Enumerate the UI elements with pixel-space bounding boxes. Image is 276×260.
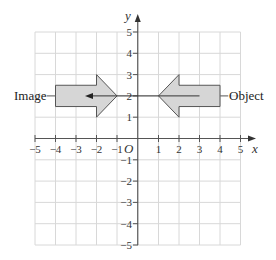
svg-text:−2: −2 xyxy=(120,175,132,187)
svg-text:−3: −3 xyxy=(120,196,132,208)
svg-text:2: 2 xyxy=(176,143,182,155)
x-tick-labels: −5 −4 −3 −2 −1 1 2 3 4 5 xyxy=(29,143,244,155)
svg-text:3: 3 xyxy=(197,143,203,155)
x-axis-label: x xyxy=(251,141,258,156)
svg-text:−5: −5 xyxy=(29,143,41,155)
coordinate-diagram: −5 −4 −3 −2 −1 1 2 3 4 5 5 4 3 2 1 −1 −2… xyxy=(0,0,276,260)
y-axis-label: y xyxy=(123,8,131,23)
svg-text:4: 4 xyxy=(127,47,133,59)
svg-text:−3: −3 xyxy=(70,143,82,155)
origin-label: O xyxy=(124,141,134,156)
svg-text:−2: −2 xyxy=(91,143,103,155)
svg-text:−4: −4 xyxy=(120,218,132,230)
svg-text:3: 3 xyxy=(127,69,133,81)
svg-text:5: 5 xyxy=(238,143,244,155)
y-axis-arrow-icon xyxy=(135,14,141,22)
image-label: Image xyxy=(14,88,47,103)
svg-text:−4: −4 xyxy=(50,143,62,155)
svg-text:1: 1 xyxy=(156,143,162,155)
svg-text:4: 4 xyxy=(217,143,223,155)
svg-text:5: 5 xyxy=(127,26,133,38)
svg-text:1: 1 xyxy=(127,111,133,123)
object-label: Object xyxy=(229,88,264,103)
svg-text:−5: −5 xyxy=(120,239,132,251)
